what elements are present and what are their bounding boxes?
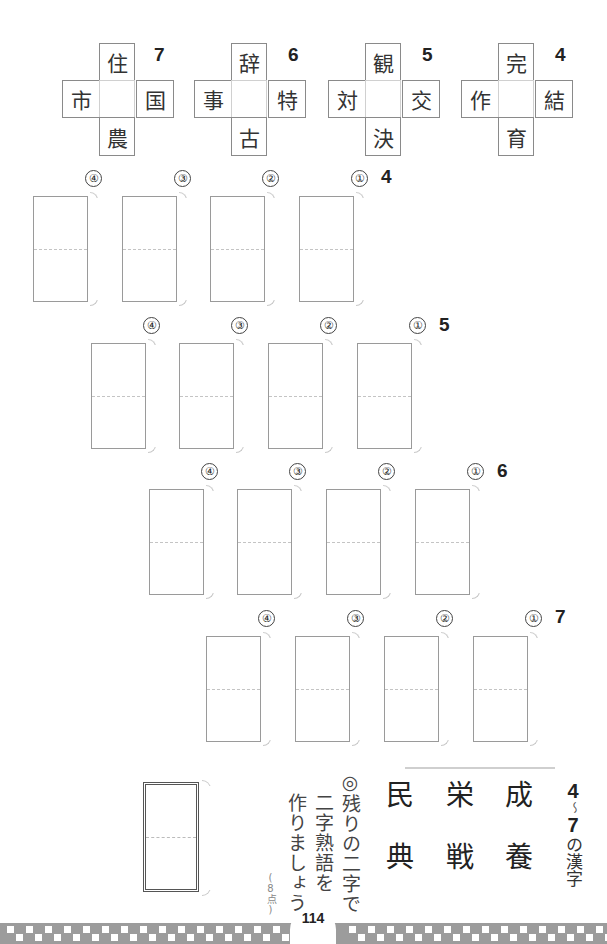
reading-bracket (206, 485, 214, 599)
cross-cell-right: 国 (136, 80, 174, 118)
circled-number: ④ (258, 610, 275, 627)
reading-bracket (90, 192, 98, 306)
checker-square (225, 934, 232, 941)
answer-slot-4: ④ (149, 463, 238, 593)
checker-square (396, 934, 403, 941)
checker-square (567, 934, 574, 941)
reading-bracket (179, 192, 187, 306)
checker-square (349, 926, 356, 933)
reading-bracket (325, 339, 333, 453)
checker-square (254, 926, 261, 933)
final-answer-box[interactable] (143, 782, 199, 892)
reading-bracket (148, 339, 156, 453)
reading-bracket (383, 485, 391, 599)
title-range-start: 4 (562, 780, 584, 802)
circled-number: ③ (347, 610, 364, 627)
cross-cell-top: 辞 (231, 43, 267, 81)
page-number: 114 (290, 910, 336, 926)
answer-slot-3: ③ (122, 170, 211, 300)
question-number: 5 (422, 44, 433, 66)
answer-slot-2: ② (384, 610, 473, 740)
checker-square (64, 926, 71, 933)
reading-bracket (352, 632, 360, 746)
checker-square (216, 926, 223, 933)
question-number: 6 (288, 44, 299, 66)
answer-box[interactable] (210, 196, 265, 302)
answer-box[interactable] (149, 489, 204, 595)
checker-square (453, 934, 460, 941)
answer-box[interactable] (237, 489, 292, 595)
dashed-divider (207, 689, 260, 690)
checker-square (577, 926, 584, 933)
checker-square (206, 934, 213, 941)
circled-number: ② (436, 610, 453, 627)
reading-bracket (267, 192, 275, 306)
checker-square (406, 926, 413, 933)
checker-square (16, 934, 23, 941)
dashed-divider (416, 542, 469, 543)
answer-box[interactable] (33, 196, 88, 302)
checker-square (26, 926, 33, 933)
checker-square (35, 934, 42, 941)
checker-square (7, 926, 14, 933)
answer-box[interactable] (384, 636, 439, 742)
title-range-end: 7 (562, 814, 584, 836)
dashed-divider (269, 396, 322, 397)
answer-box[interactable] (299, 196, 354, 302)
checker-square (244, 934, 251, 941)
checker-square (83, 926, 90, 933)
circled-number: ④ (201, 463, 218, 480)
checker-square (548, 934, 555, 941)
checker-square (596, 926, 603, 933)
answer-slot-2: ② (268, 317, 357, 447)
answer-slot-1: ① (415, 463, 504, 593)
answer-box[interactable] (179, 343, 234, 449)
circled-number: ④ (85, 170, 102, 187)
answer-box[interactable] (122, 196, 177, 302)
answer-box[interactable] (473, 636, 528, 742)
checker-square (102, 926, 109, 933)
checker-square (387, 926, 394, 933)
points-label: (8点) (263, 872, 278, 915)
checker-square (54, 934, 61, 941)
answer-box[interactable] (415, 489, 470, 595)
dashed-divider (358, 396, 411, 397)
answer-slot-2: ② (210, 170, 299, 300)
answer-box[interactable] (91, 343, 146, 449)
dashed-divider (123, 249, 176, 250)
answer-box[interactable] (268, 343, 323, 449)
reading-bracket (294, 485, 302, 599)
circled-number: ③ (174, 170, 191, 187)
answer-box[interactable] (206, 636, 261, 742)
cross-cell-top: 観 (365, 43, 401, 81)
answer-box[interactable] (357, 343, 412, 449)
checker-square (187, 934, 194, 941)
checker-square (149, 934, 156, 941)
answer-slot-3: ③ (179, 317, 268, 447)
answer-slot-1: ① (473, 610, 562, 740)
checker-square (444, 926, 451, 933)
checker-square (121, 926, 128, 933)
checker-square (273, 926, 280, 933)
circled-number: ① (467, 463, 484, 480)
answer-slot-1: ① (357, 317, 446, 447)
dashed-divider (300, 249, 353, 250)
reading-bracket (236, 339, 244, 453)
circled-number: ② (262, 170, 279, 187)
answer-box[interactable] (326, 489, 381, 595)
row-number: 5 (439, 314, 450, 336)
checker-square (197, 926, 204, 933)
question-number: 7 (154, 44, 165, 66)
cross-cell-bottom: 古 (231, 117, 267, 156)
checker-square (159, 926, 166, 933)
cross-cell-left: 作 (461, 80, 499, 118)
checker-square (168, 934, 175, 941)
checker-square (520, 926, 527, 933)
circled-number: ② (320, 317, 337, 334)
checker-square (368, 926, 375, 933)
checker-square (358, 934, 365, 941)
circled-number: ③ (289, 463, 306, 480)
circled-number: ① (525, 610, 542, 627)
checker-square (235, 926, 242, 933)
answer-box[interactable] (295, 636, 350, 742)
